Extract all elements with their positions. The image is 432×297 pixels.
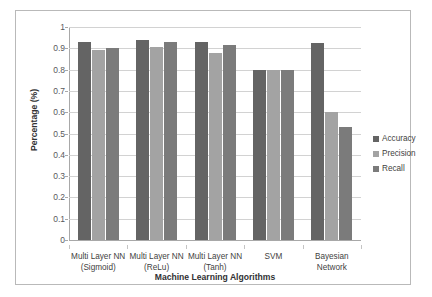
gridline (69, 240, 361, 241)
bar-accuracy (195, 42, 208, 240)
bar-recall (223, 45, 236, 240)
bar-recall (106, 48, 119, 240)
legend-swatch-icon (373, 151, 379, 157)
x-tick-label-line: Multi Layer NN (130, 251, 184, 262)
chart-legend: AccuracyPrecisionRecall (373, 131, 425, 176)
legend-swatch-icon (373, 166, 379, 172)
y-tick-mark (65, 91, 68, 92)
y-tick-mark (65, 27, 68, 28)
x-tick-label-line: Multi Layer NN (188, 251, 242, 262)
bar-group (311, 27, 352, 240)
bar-accuracy (311, 43, 324, 240)
y-tick-mark (65, 48, 68, 49)
bar-precision (150, 47, 163, 240)
x-tick-label: Multi Layer NN(ReLu) (130, 251, 184, 273)
x-tick-mark (69, 245, 70, 249)
y-tick-mark (65, 112, 68, 113)
bar-precision (209, 53, 222, 240)
y-tick-mark (65, 134, 68, 135)
y-axis-title: Percentage (%) (29, 65, 39, 175)
x-tick-mark (127, 245, 128, 249)
bar-accuracy (136, 40, 149, 240)
bar-precision (92, 50, 105, 240)
legend-item-recall[interactable]: Recall (373, 161, 425, 176)
x-tick-label: BayesianNetwork (315, 251, 349, 273)
x-tick-mark (186, 245, 187, 249)
bar-precision (267, 70, 280, 240)
x-tick-label-line: SVM (265, 251, 283, 262)
y-tick-mark (65, 155, 68, 156)
x-tick-mark (303, 245, 304, 249)
bar-accuracy (78, 42, 91, 240)
plot-area (69, 27, 361, 240)
bar-precision (325, 112, 338, 240)
legend-label: Precision (382, 149, 416, 158)
y-tick-label: 0.2 (31, 192, 65, 202)
y-tick-label: 0.1 (31, 214, 65, 224)
x-tick-label-line: Multi Layer NN (71, 251, 125, 262)
y-tick-label: 1 (31, 22, 65, 32)
y-tick-mark (65, 219, 68, 220)
y-tick-mark (65, 197, 68, 198)
y-tick-mark (65, 176, 68, 177)
legend-item-precision[interactable]: Precision (373, 146, 425, 161)
bar-group (136, 27, 177, 240)
x-tick-mark (244, 245, 245, 249)
x-tick-label: SVM (265, 251, 283, 262)
y-tick-mark (65, 70, 68, 71)
bar-group (195, 27, 236, 240)
x-tick-label-line: Bayesian (315, 251, 349, 262)
legend-label: Accuracy (382, 134, 416, 143)
legend-label: Recall (382, 164, 405, 173)
y-tick-mark (65, 240, 68, 241)
bar-accuracy (253, 70, 266, 240)
bar-recall (339, 127, 352, 240)
y-tick-label: 0 (31, 235, 65, 245)
bar-group (78, 27, 119, 240)
bar-recall (164, 42, 177, 240)
x-tick-label: Multi Layer NN(Sigmoid) (71, 251, 125, 273)
legend-item-accuracy[interactable]: Accuracy (373, 131, 425, 146)
x-tick-mark (361, 245, 362, 249)
x-axis-title: Machine Learning Algorithms (69, 272, 361, 282)
y-tick-label: 0.9 (31, 43, 65, 53)
legend-swatch-icon (373, 136, 379, 142)
bar-recall (281, 70, 294, 240)
bar-group (253, 27, 294, 240)
chart-container: 10.90.80.70.60.50.40.30.20.10 Multi Laye… (15, 10, 411, 285)
x-tick-label: Multi Layer NN(Tanh) (188, 251, 242, 273)
